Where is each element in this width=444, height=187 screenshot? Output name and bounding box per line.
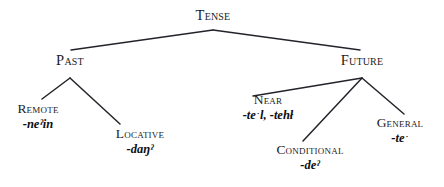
tree-node-past-label: Past (56, 53, 84, 68)
tree-node-near-label: Near (243, 93, 294, 107)
edge-future-general (362, 78, 404, 114)
tree-node-conditional-form: -deˀ (276, 158, 343, 174)
edge-past-remote (42, 78, 70, 99)
edge-future-conditional (303, 78, 362, 141)
tree-node-locative-label: Locative (116, 127, 164, 141)
tree-node-general-form: -teˑ (377, 131, 424, 147)
tense-tree-diagram: Tense Past Future Remote -neˀin Locative… (0, 0, 444, 187)
tree-branch-lines (0, 0, 444, 187)
tree-node-locative: Locative -daŋˀ (116, 127, 164, 158)
tree-node-tense: Tense (196, 8, 231, 23)
tree-node-conditional-label: Conditional (276, 143, 343, 157)
tree-node-remote: Remote -neˀin (17, 102, 58, 133)
tree-node-remote-label: Remote (17, 102, 58, 116)
tree-node-near-form: -teˑl, -tehł (243, 108, 294, 124)
tree-node-conditional: Conditional -deˀ (276, 143, 343, 174)
tree-node-tense-label: Tense (196, 8, 231, 23)
edge-tense-future (213, 30, 360, 50)
tree-node-general: General -teˑ (377, 116, 424, 147)
edge-tense-past (71, 30, 213, 50)
tree-node-near: Near -teˑl, -tehł (243, 93, 294, 124)
tree-node-locative-form: -daŋˀ (116, 142, 164, 158)
tree-node-general-label: General (377, 116, 424, 130)
tree-node-past: Past (56, 53, 84, 68)
tree-node-remote-form: -neˀin (17, 117, 58, 133)
tree-node-future: Future (341, 53, 384, 68)
tree-node-future-label: Future (341, 53, 384, 68)
edge-past-locative (70, 78, 120, 124)
